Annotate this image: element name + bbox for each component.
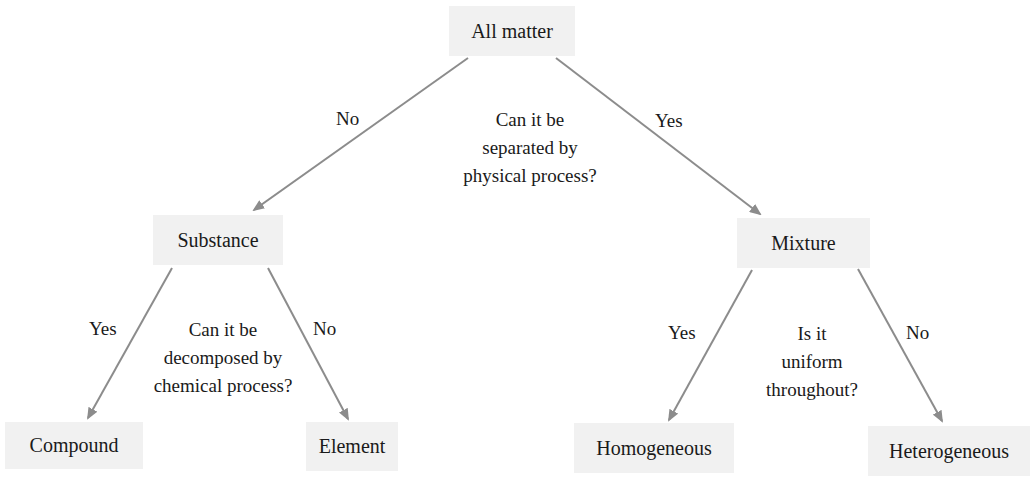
edge-label-root-no: No <box>336 108 359 130</box>
arrow-root-to-substance <box>254 58 468 210</box>
question-line: Is it <box>742 320 882 348</box>
node-heterogeneous-label: Heterogeneous <box>889 440 1009 463</box>
question-line: separated by <box>440 134 620 162</box>
question-uniformity: Is it uniform throughout? <box>742 320 882 404</box>
question-line: Can it be <box>440 106 620 134</box>
edge-label-root-yes: Yes <box>655 110 683 132</box>
node-compound: Compound <box>5 422 143 469</box>
node-substance: Substance <box>153 215 283 265</box>
question-line: chemical process? <box>133 372 313 400</box>
question-line: throughout? <box>742 376 882 404</box>
node-all-matter: All matter <box>449 6 575 56</box>
node-substance-label: Substance <box>177 229 258 252</box>
question-line: uniform <box>742 348 882 376</box>
question-line: Can it be <box>133 316 313 344</box>
node-all-matter-label: All matter <box>471 20 553 43</box>
edge-label-substance-yes: Yes <box>89 318 117 340</box>
question-physical-separation: Can it be separated by physical process? <box>440 106 620 190</box>
question-chemical-decomposition: Can it be decomposed by chemical process… <box>133 316 313 400</box>
node-homogeneous: Homogeneous <box>574 423 734 473</box>
question-line: decomposed by <box>133 344 313 372</box>
edge-label-substance-no: No <box>313 318 336 340</box>
edge-label-mixture-no: No <box>906 322 929 344</box>
node-element-label: Element <box>319 435 386 458</box>
node-mixture-label: Mixture <box>771 232 835 255</box>
question-line: physical process? <box>440 162 620 190</box>
edge-label-mixture-yes: Yes <box>668 322 696 344</box>
node-heterogeneous: Heterogeneous <box>868 426 1030 476</box>
arrow-mixture-to-homogeneous <box>669 270 752 420</box>
node-mixture: Mixture <box>737 218 870 268</box>
node-element: Element <box>306 422 398 471</box>
node-homogeneous-label: Homogeneous <box>596 437 712 460</box>
node-compound-label: Compound <box>30 434 119 457</box>
